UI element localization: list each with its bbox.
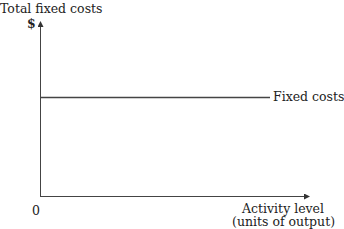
series-label-fixed-costs: Fixed costs [273, 91, 344, 104]
y-axis-unit: $ [27, 18, 36, 31]
y-axis-label: Total fixed costs [0, 3, 102, 16]
x-axis-label-line2: (units of output) [232, 216, 335, 229]
origin-label: 0 [32, 205, 40, 218]
